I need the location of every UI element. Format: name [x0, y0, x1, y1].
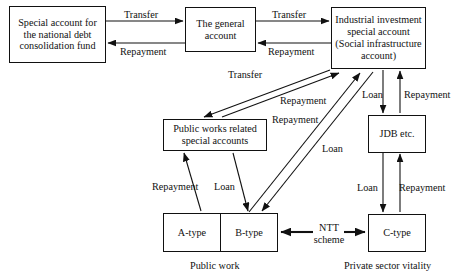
- edge-label-transfer-general-industrial: Transfer: [272, 9, 306, 21]
- node-general-account-label: The general account: [186, 18, 255, 42]
- node-special-account[interactable]: Special account for the national debt co…: [9, 6, 106, 63]
- node-ab-type-group: A-type B-type: [163, 213, 278, 252]
- flow-diagram: Special account for the national debt co…: [0, 0, 456, 280]
- node-public-works-label: Public works related special accounts: [164, 123, 266, 147]
- node-a-type[interactable]: A-type: [164, 214, 220, 251]
- node-b-type[interactable]: B-type: [220, 214, 277, 251]
- edge-label-loan-industrial-btype: Loan: [322, 143, 343, 155]
- caption-public-work: Public work: [190, 260, 240, 271]
- arrow-loan-publicworks-to-btype: [233, 153, 248, 211]
- node-industrial-label: Industrial investment special account (S…: [332, 14, 425, 61]
- edge-label-loan-industrial-jdb: Loan: [362, 89, 383, 101]
- edge-label-ntt-scheme: NTT scheme: [313, 222, 345, 246]
- caption-private-sector-vitality: Private sector vitality: [344, 260, 431, 271]
- edge-label-repayment-publicworks-industrial: Repayment: [280, 95, 326, 107]
- node-b-type-label: B-type: [232, 227, 266, 239]
- node-industrial-investment-special-account[interactable]: Industrial investment special account (S…: [331, 7, 426, 69]
- edge-label-loan-jdb-ctype: Loan: [357, 182, 378, 194]
- arrow-transfer-industrial-to-publicworks: [204, 70, 330, 117]
- node-jdb[interactable]: JDB etc.: [368, 115, 426, 153]
- node-c-type-label: C-type: [380, 227, 414, 239]
- edge-label-repayment-jdb-industrial: Repayment: [404, 89, 450, 101]
- node-special-account-label: Special account for the national debt co…: [10, 17, 105, 52]
- edge-label-transfer-special-general: Transfer: [124, 9, 158, 21]
- edge-label-repayment-general-special: Repayment: [120, 46, 166, 58]
- node-public-works-related-special-accounts[interactable]: Public works related special accounts: [163, 119, 267, 151]
- edge-label-transfer-industrial-publicworks: Transfer: [228, 69, 262, 81]
- node-general-account[interactable]: The general account: [185, 7, 256, 52]
- edge-label-repayment-atype-publicworks: Repayment: [152, 181, 198, 193]
- edge-label-repayment-ctype-jdb: Repayment: [399, 182, 445, 194]
- edge-label-loan-publicworks-btype: Loan: [214, 181, 235, 193]
- edge-label-repayment-industrial-general: Repayment: [268, 46, 314, 58]
- edge-label-repayment-btype-industrial: Repayment: [272, 114, 318, 126]
- node-a-type-label: A-type: [175, 227, 209, 239]
- node-jdb-label: JDB etc.: [376, 128, 417, 140]
- node-c-type[interactable]: C-type: [368, 214, 426, 252]
